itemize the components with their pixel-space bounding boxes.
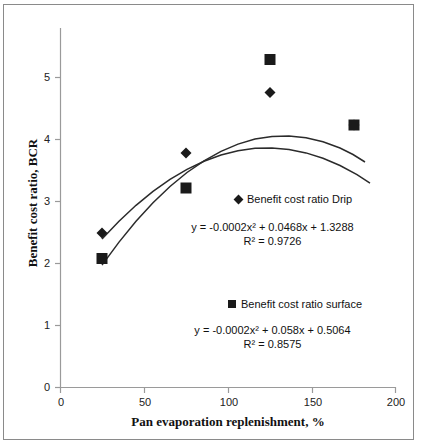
x-tick-label-0: 0: [46, 396, 76, 408]
drip-equation-text: y = -0.0002x² + 0.0468x + 1.3288: [185, 220, 360, 234]
x-tick-label-50: 50: [130, 396, 160, 408]
legend-item-drip: Benefit cost ratio Drip: [235, 193, 352, 205]
x-tick-label-150: 150: [298, 396, 328, 408]
x-axis-title: Pan evaporation replenishment, %: [60, 414, 396, 430]
y-tick-label-5: 5: [32, 71, 50, 83]
y-axis-title: Benefit cost ratio, BCR: [25, 108, 41, 298]
data-point-surface-4: [349, 120, 360, 131]
data-point-surface-3: [265, 54, 276, 65]
chart-figure: 0 1 2 3 4 5 0 50 100 150 200 Pan evapora…: [0, 0, 421, 448]
drip-r2-text: R² = 0.9726: [185, 234, 360, 248]
data-point-drip-2: [181, 148, 192, 159]
drip-equation-annotation: y = -0.0002x² + 0.0468x + 1.3288 R² = 0.…: [185, 220, 360, 248]
y-tick-label-0: 0: [32, 381, 50, 393]
data-point-surface-2: [181, 183, 192, 194]
x-tick-label-100: 100: [214, 396, 244, 408]
y-tick-label-1: 1: [32, 319, 50, 331]
surface-equation-annotation: y = -0.0002x² + 0.058x + 0.5064 R² = 0.8…: [185, 323, 360, 351]
legend-item-surface: Benefit cost ratio surface: [228, 298, 362, 310]
y-tick-marks: [55, 78, 60, 388]
square-marker-icon: [228, 300, 236, 308]
data-markers-drip: [97, 87, 360, 239]
data-point-surface-1: [97, 253, 108, 264]
legend-label-surface: Benefit cost ratio surface: [241, 298, 362, 310]
x-tick-label-200: 200: [381, 396, 411, 408]
surface-r2-text: R² = 0.8575: [185, 337, 360, 351]
data-point-drip-1: [97, 228, 108, 239]
surface-equation-text: y = -0.0002x² + 0.058x + 0.5064: [185, 323, 360, 337]
data-point-drip-3: [265, 87, 276, 98]
legend-label-drip: Benefit cost ratio Drip: [247, 193, 352, 205]
diamond-marker-icon: [234, 194, 244, 204]
